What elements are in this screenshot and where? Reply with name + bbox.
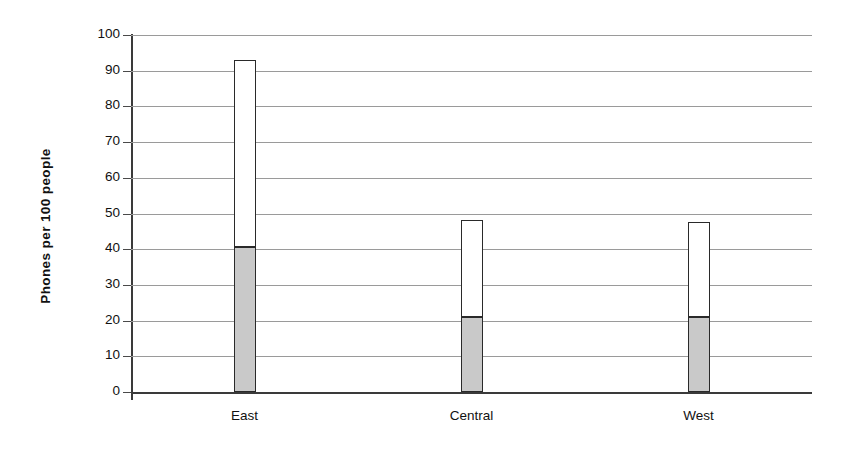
y-axis-title: Phones per 100 people xyxy=(30,0,60,452)
y-tick-label: 90 xyxy=(80,62,120,77)
bar-segment-lower-segment xyxy=(461,317,483,392)
y-tick-label: 40 xyxy=(80,240,120,255)
bar-east xyxy=(234,0,256,452)
y-tick-label: 80 xyxy=(80,97,120,112)
bar-west xyxy=(688,0,710,452)
bar-central xyxy=(461,0,483,452)
y-tick-label: 20 xyxy=(80,312,120,327)
y-tick-label: 0 xyxy=(80,383,120,398)
bar-segment-lower-segment xyxy=(234,247,256,392)
y-tick-label: 100 xyxy=(80,26,120,41)
bar-segment-upper-segment xyxy=(688,222,710,317)
chart-container: Phones per 100 people 100908070605040302… xyxy=(0,0,858,452)
x-axis-label-central: Central xyxy=(412,408,532,423)
y-tick-label: 60 xyxy=(80,169,120,184)
bar-segment-upper-segment xyxy=(461,220,483,317)
y-tick-label: 70 xyxy=(80,133,120,148)
y-tick-label: 10 xyxy=(80,347,120,362)
bar-segment-upper-segment xyxy=(234,60,256,247)
x-axis-label-west: West xyxy=(639,408,759,423)
y-tick-label: 30 xyxy=(80,276,120,291)
bar-segment-lower-segment xyxy=(688,317,710,392)
y-tick-label: 50 xyxy=(80,205,120,220)
x-axis-label-east: East xyxy=(185,408,305,423)
